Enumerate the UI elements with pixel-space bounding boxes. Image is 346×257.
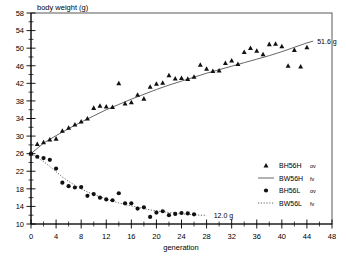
chart-canvas: 10141822263034384246505458 0481216202428… [0,0,346,257]
data-point-circle [161,209,165,213]
x-tick-label: 28 [202,232,210,241]
y-tick-label: 54 [16,26,24,35]
data-point-triangle [279,44,284,49]
x-tick-label: 44 [303,232,311,241]
data-point-circle [173,212,177,216]
y-tick-label: 38 [16,97,24,106]
chart-figure: 10141822263034384246505458 0481216202428… [0,0,346,257]
x-tick-label: 12 [102,232,110,241]
y-tick-label: 26 [16,149,24,158]
data-point-triangle [298,64,303,69]
y-tick-label: 18 [16,185,24,194]
x-tick-label: 0 [29,232,33,241]
data-point-triangle [204,66,209,71]
y-axis-title: body weight (g) [37,3,89,12]
legend-suffix: ov [310,163,316,169]
data-point-circle [123,201,127,205]
data-point-triangle [116,81,121,86]
legend-item-bh56l: BH56Lov [264,187,316,194]
data-point-circle [79,185,83,189]
data-point-circle [67,184,71,188]
data-point-triangle [47,137,52,142]
y-tick-label: 14 [16,202,24,211]
data-point-triangle [223,61,228,66]
series-markers-group [29,41,310,219]
x-tick-label: 16 [127,232,135,241]
data-point-triangle [98,103,103,108]
data-point-circle [179,211,183,215]
x-tick-label: 32 [227,232,235,241]
data-point-circle [92,192,96,196]
y-tick-label: 46 [16,62,24,71]
legend-label: BW56L [279,200,302,207]
data-point-triangle [35,141,40,146]
x-axis-tick-labels: 04812162024283236404448 [29,232,336,241]
data-point-triangle [160,80,165,85]
y-tick-label: 42 [16,79,24,88]
x-axis-title: generation [163,243,198,252]
x-tick-label: 40 [278,232,286,241]
data-point-triangle [148,84,153,89]
data-point-triangle [248,46,253,51]
data-point-triangle [286,63,291,68]
y-tick-label: 34 [16,114,24,123]
data-point-triangle [141,96,146,101]
legend-triangle-icon [264,163,269,168]
data-point-triangle [198,62,203,67]
data-point-circle [60,181,64,185]
legend-suffix: ov [310,188,316,194]
legend-circle-icon [264,188,268,192]
series-points-bh56l-ov [29,152,196,219]
data-point-circle [117,191,121,195]
x-tick-label: 20 [152,232,160,241]
legend-suffix: fv [310,176,315,182]
legend-label: BW56H [279,175,303,182]
y-tick-label: 58 [16,9,24,18]
series-lines-group [31,41,313,215]
x-tick-label: 36 [253,232,261,241]
x-tick-label: 24 [177,232,185,241]
y-tick-label: 50 [16,44,24,53]
data-point-circle [136,207,140,211]
y-tick-label: 30 [16,132,24,141]
data-point-circle [48,158,52,162]
data-point-triangle [229,58,234,63]
data-point-triangle [304,45,309,50]
data-point-circle [54,167,58,171]
data-point-triangle [242,50,247,55]
data-point-triangle [179,75,184,80]
series-line-bw56h-fv [31,41,313,154]
data-point-circle [73,185,77,189]
data-point-circle [148,215,152,219]
data-point-circle [110,198,114,202]
x-tick-label: 48 [328,232,336,241]
data-point-circle [29,152,33,156]
data-point-circle [192,212,196,216]
legend-suffix: fv [310,201,315,207]
x-tick-label: 4 [54,232,58,241]
series-line-bw56l-fv [31,154,207,216]
data-point-triangle [154,81,159,86]
data-point-circle [85,194,89,198]
data-point-circle [142,205,146,209]
legend-label: BH56L [279,187,301,194]
data-point-circle [154,210,158,214]
data-annotations-group: 51.6 g12.0 g [214,38,337,220]
data-point-triangle [254,48,259,53]
y-tick-label: 22 [16,167,24,176]
data-point-triangle [166,73,171,78]
data-point-triangle [267,42,272,47]
data-point-circle [167,213,171,217]
x-tick-label: 8 [79,232,83,241]
series-points-bh56h-ov [29,41,310,155]
data-point-triangle [123,101,128,106]
data-point-circle [98,196,102,200]
data-point-triangle [273,41,278,46]
y-axis-tick-labels: 10141822263034384246505458 [16,9,24,229]
data-point-triangle [173,76,178,81]
legend-label: BH56H [279,162,302,169]
y-tick-label: 10 [16,220,24,229]
data-point-triangle [60,128,65,133]
data-point-triangle [104,104,109,109]
data-point-circle [41,156,45,160]
